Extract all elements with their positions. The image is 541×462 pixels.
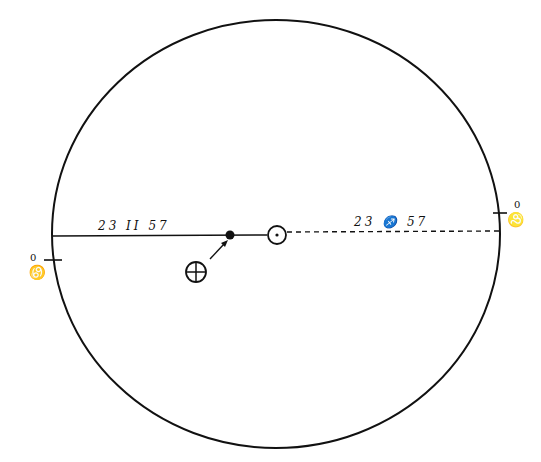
arrow-icon [210,240,228,259]
left-segment-label: 23 II 57 [98,219,170,233]
solid-line-left [53,235,267,236]
left-tick-sign-icon: ♋ [30,264,44,281]
dashed-line-right [287,231,499,232]
right-tick-degree: 0 [514,200,520,210]
black-point-icon [226,231,235,240]
right-segment-label: 23 ♐ 57 [354,215,428,229]
left-tick-degree: 0 [30,253,36,263]
earth-symbol-icon [186,262,206,282]
right-tick-sign-icon: ♌ [509,211,523,228]
sun-symbol-icon [268,226,286,244]
orbit-diagram [0,0,541,462]
